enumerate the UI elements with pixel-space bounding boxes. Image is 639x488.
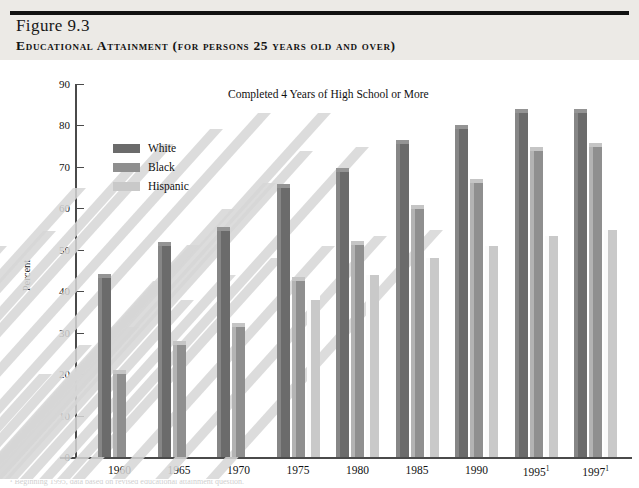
- y-tick: [77, 167, 84, 168]
- bar-black-1995: [530, 147, 543, 457]
- bar-face: [415, 209, 424, 457]
- y-tick: [77, 333, 84, 334]
- bar-hispanic-1995: [545, 232, 558, 457]
- bar-top: [426, 254, 439, 258]
- x-tick-label: 19971: [561, 464, 631, 478]
- bar-white-1960: [98, 274, 111, 457]
- bar-white-1980: [336, 168, 349, 457]
- legend-item-white[interactable]: White: [113, 140, 189, 156]
- figure-title: Educational Attainment (for persons 25 y…: [16, 38, 396, 54]
- bar-face: [340, 172, 349, 457]
- bar-face: [459, 129, 468, 457]
- legend-swatch-icon: [113, 182, 140, 191]
- bar-face: [177, 345, 186, 457]
- bar-top: [158, 242, 171, 246]
- legend-swatch-icon: [113, 163, 140, 172]
- bar-black-1985: [411, 205, 424, 457]
- bar-face: [236, 327, 245, 457]
- bar-top: [366, 271, 379, 275]
- bar-face: [162, 246, 171, 457]
- x-axis-line: [60, 457, 632, 459]
- bar-top: [515, 109, 528, 113]
- bar-top: [307, 296, 320, 300]
- bar-white-1990: [455, 125, 468, 457]
- y-tick: [77, 84, 84, 85]
- bar-face: [549, 236, 558, 457]
- chart-subtitle: Completed 4 Years of High School or More: [228, 88, 429, 100]
- bar-hispanic-1997: [604, 226, 617, 457]
- bar-face: [593, 147, 602, 457]
- bar-white-1995: [515, 109, 528, 457]
- bar-top: [351, 241, 364, 245]
- bar-face: [519, 113, 528, 457]
- bar-hispanic-1980: [366, 271, 379, 457]
- bar-face: [474, 183, 483, 457]
- bar-white-1985: [396, 140, 409, 457]
- bar-top: [292, 277, 305, 281]
- bar-top: [530, 147, 543, 151]
- bar-top: [470, 179, 483, 183]
- bar-top: [485, 242, 498, 246]
- bar-face: [355, 245, 364, 457]
- bar-top: [173, 341, 186, 345]
- bar-black-1965: [173, 341, 186, 457]
- y-tick-label: 80: [42, 120, 70, 130]
- bar-top: [113, 370, 126, 374]
- bar-black-1980: [351, 241, 364, 457]
- chart-legend: WhiteBlackHispanic: [113, 140, 189, 197]
- bar-black-1997: [589, 143, 602, 457]
- bar-top: [98, 274, 111, 278]
- bar-face: [102, 278, 111, 457]
- bar-white-1975: [277, 184, 290, 457]
- bar-hispanic-1975: [307, 296, 320, 457]
- bar-face: [281, 188, 290, 457]
- legend-item-hispanic[interactable]: Hispanic: [113, 178, 189, 194]
- y-tick: [77, 125, 84, 126]
- legend-item-black[interactable]: Black: [113, 159, 189, 175]
- bar-black-1990: [470, 179, 483, 457]
- bar-face: [311, 300, 320, 457]
- bar-black-1970: [232, 323, 245, 457]
- y-tick-label: 90: [42, 79, 70, 89]
- bar-top: [589, 143, 602, 147]
- bar-black-1960: [113, 370, 126, 457]
- y-tick-label-text: 70: [46, 162, 70, 172]
- bar-face: [489, 246, 498, 457]
- y-tick-label-text: 80: [46, 120, 70, 130]
- bar-face: [608, 230, 617, 457]
- bar-top: [336, 168, 349, 172]
- y-tick: [77, 208, 84, 209]
- legend-label: Black: [148, 161, 175, 173]
- bar-black-1975: [292, 277, 305, 457]
- bar-face: [296, 281, 305, 457]
- bar-face: [370, 275, 379, 457]
- bar-face: [578, 113, 587, 457]
- figure-number: Figure 9.3: [16, 16, 90, 36]
- bar-face: [430, 258, 439, 457]
- bar-hispanic-1985: [426, 254, 439, 457]
- bar-face: [534, 151, 543, 457]
- footnote-text: ¹ Beginning 1995, data based on revised …: [10, 480, 244, 486]
- y-tick-label-text: 90: [46, 79, 70, 89]
- bar-white-1997: [574, 109, 587, 457]
- bar-top: [277, 184, 290, 188]
- bar-face: [117, 374, 126, 457]
- legend-swatch-icon: [113, 144, 140, 153]
- bar-white-1965: [158, 242, 171, 457]
- bar-top: [232, 323, 245, 327]
- bar-top: [217, 227, 230, 231]
- bar-face: [400, 144, 409, 457]
- y-tick: [77, 291, 84, 292]
- y-tick-label: 70: [42, 162, 70, 172]
- bar-hispanic-1990: [485, 242, 498, 457]
- bar-top: [545, 232, 558, 236]
- chart-area: Completed 4 Years of High School or More…: [0, 60, 639, 488]
- bar-face: [221, 231, 230, 457]
- bar-top: [411, 205, 424, 209]
- bar-top: [455, 125, 468, 129]
- bar-top: [574, 109, 587, 113]
- legend-label: White: [148, 142, 176, 154]
- footnote-strip: ¹ Beginning 1995, data based on revised …: [0, 480, 639, 488]
- bar-white-1970: [217, 227, 230, 457]
- bar-top: [396, 140, 409, 144]
